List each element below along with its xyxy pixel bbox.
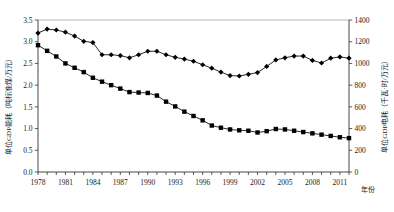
data-point-square bbox=[109, 83, 113, 87]
data-point-square bbox=[155, 93, 159, 97]
data-point-square bbox=[255, 130, 259, 134]
data-point-square bbox=[347, 136, 351, 140]
y-right-tick-label: 0 bbox=[355, 168, 359, 177]
data-point-square bbox=[36, 43, 40, 47]
x-tick-label: 1996 bbox=[195, 178, 210, 187]
y-right-tick-label: 200 bbox=[355, 146, 367, 155]
x-tick-label: 1993 bbox=[168, 178, 183, 187]
data-point-square bbox=[264, 129, 268, 133]
data-point-square bbox=[283, 127, 287, 131]
y-left-tick-label: 2.0 bbox=[23, 81, 33, 90]
data-point-square bbox=[210, 123, 214, 127]
data-point-square bbox=[127, 90, 131, 94]
y-left-tick-label: 2.5 bbox=[23, 59, 33, 68]
data-point-square bbox=[164, 99, 168, 103]
x-tick-label: 1999 bbox=[223, 178, 238, 187]
data-point-square bbox=[146, 91, 150, 95]
data-point-square bbox=[228, 127, 232, 131]
data-point-square bbox=[219, 126, 223, 130]
y-left-axis-title: 单位GDP能耗（吨标准煤/万元） bbox=[4, 55, 13, 155]
data-point-square bbox=[274, 127, 278, 131]
y-right-tick-label: 600 bbox=[355, 103, 367, 112]
x-tick-label: 1990 bbox=[140, 178, 155, 187]
data-point-square bbox=[82, 70, 86, 74]
data-point-square bbox=[72, 66, 76, 70]
data-point-square bbox=[301, 130, 305, 134]
y-left-tick-label: 0.5 bbox=[23, 146, 33, 155]
x-tick-label: 2011 bbox=[332, 178, 347, 187]
y-left-tick-label: 1.5 bbox=[23, 103, 33, 112]
chart-container: 0.00.51.01.52.02.53.03.5 020040060080010… bbox=[0, 0, 394, 212]
y-right-tick-label: 1400 bbox=[355, 16, 370, 25]
data-point-square bbox=[237, 128, 241, 132]
data-point-square bbox=[338, 135, 342, 139]
x-tick-label: 1981 bbox=[58, 178, 73, 187]
data-point-square bbox=[136, 90, 140, 94]
y-left-tick-label: 0.0 bbox=[23, 168, 33, 177]
y-left-tick-label: 1.0 bbox=[23, 124, 33, 133]
y-right-tick-label: 400 bbox=[355, 124, 367, 133]
y-right-tick-label: 800 bbox=[355, 81, 367, 90]
data-point-square bbox=[246, 129, 250, 133]
data-point-square bbox=[310, 131, 314, 135]
x-tick-label: 2008 bbox=[305, 178, 320, 187]
data-point-square bbox=[191, 114, 195, 118]
x-tick-label: 1987 bbox=[113, 178, 128, 187]
y-right-tick-label: 1200 bbox=[355, 37, 370, 46]
data-point-square bbox=[63, 61, 67, 65]
x-tick-label: 2005 bbox=[277, 178, 292, 187]
x-axis-title: 年份 bbox=[361, 185, 375, 194]
y-right-axis-title: 单位GDP电耗（千瓦·时/万元） bbox=[380, 57, 389, 152]
y-left-tick-label: 3.0 bbox=[23, 37, 33, 46]
y-left-tick-label: 3.5 bbox=[23, 16, 33, 25]
dual-axis-line-chart: 0.00.51.01.52.02.53.03.5 020040060080010… bbox=[0, 0, 394, 212]
data-point-square bbox=[173, 104, 177, 108]
data-point-square bbox=[118, 86, 122, 90]
x-tick-label: 1978 bbox=[31, 178, 46, 187]
data-point-square bbox=[292, 129, 296, 133]
data-point-square bbox=[91, 76, 95, 80]
data-point-square bbox=[100, 79, 104, 83]
data-point-square bbox=[200, 118, 204, 122]
data-point-square bbox=[182, 109, 186, 113]
x-tick-label: 2002 bbox=[250, 178, 265, 187]
data-point-square bbox=[319, 132, 323, 136]
data-point-square bbox=[54, 54, 58, 58]
x-tick-label: 1984 bbox=[85, 178, 100, 187]
data-point-square bbox=[329, 134, 333, 138]
y-right-tick-label: 1000 bbox=[355, 59, 370, 68]
data-point-square bbox=[45, 49, 49, 53]
